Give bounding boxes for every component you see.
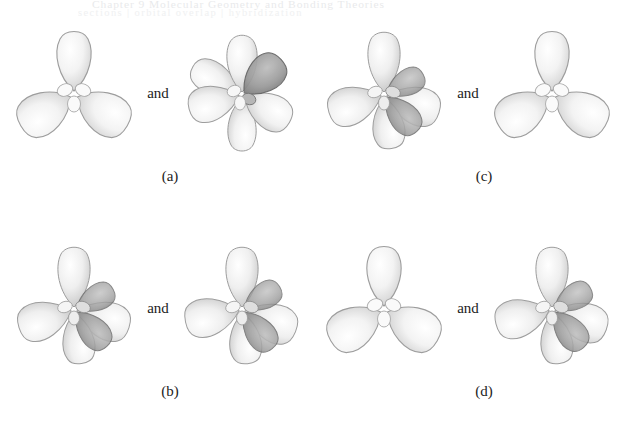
orbital-c-right bbox=[491, 21, 613, 163]
orbital-a-right bbox=[181, 21, 303, 163]
conjunction-b: and bbox=[135, 301, 181, 316]
panel-label-d: (d) bbox=[334, 383, 631, 400]
panel-d: and bbox=[318, 233, 618, 421]
multi-lobe-orbital-icon bbox=[181, 21, 303, 163]
orbital-c-left bbox=[323, 21, 445, 163]
panel-label-c: (c) bbox=[334, 168, 631, 185]
orbital-pair-a: and bbox=[8, 18, 308, 166]
panel-c: and bbox=[318, 18, 618, 213]
multi-lobe-orbital-icon bbox=[323, 21, 445, 163]
panel-a: and bbox=[8, 18, 308, 213]
orbital-b-left bbox=[13, 236, 135, 378]
conjunction-d: and bbox=[445, 301, 491, 316]
three-lobe-orbital-icon bbox=[323, 236, 445, 378]
multi-lobe-orbital-icon bbox=[13, 236, 135, 378]
orbital-pair-b: and bbox=[8, 233, 308, 381]
orbital-a-left bbox=[13, 21, 135, 163]
panel-label-b: (b) bbox=[20, 383, 320, 400]
three-lobe-orbital-icon bbox=[13, 21, 135, 163]
panel-b: and bbox=[8, 233, 308, 421]
orbital-figure: and bbox=[0, 0, 631, 421]
multi-lobe-orbital-icon bbox=[181, 236, 303, 378]
panel-label-a: (a) bbox=[20, 168, 320, 185]
orbital-d-right bbox=[491, 236, 613, 378]
three-lobe-orbital-icon bbox=[491, 21, 613, 163]
orbital-pair-c: and bbox=[318, 18, 618, 166]
orbital-pair-d: and bbox=[318, 233, 618, 381]
orbital-b-right bbox=[181, 236, 303, 378]
conjunction-a: and bbox=[135, 86, 181, 101]
multi-lobe-orbital-icon bbox=[491, 236, 613, 378]
conjunction-c: and bbox=[445, 86, 491, 101]
orbital-d-left bbox=[323, 236, 445, 378]
